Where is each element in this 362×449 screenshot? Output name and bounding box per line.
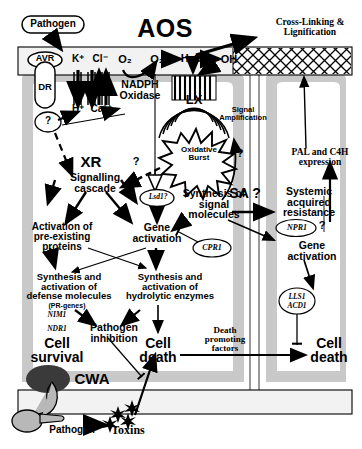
diagram-canvas: Pathogen AVR DR ? AOS Cross-Linking & Li… — [0, 0, 362, 449]
llsl-acd1-label: LLS1 ACD1 — [281, 293, 313, 310]
hydroxyl-label: OH — [218, 54, 240, 65]
dr-label: DR — [35, 82, 55, 92]
pathogen-top-label: Pathogen — [22, 19, 84, 29]
pal-c4h-label: PAL and C4H expression — [282, 148, 358, 167]
peroxide-label: H₂O₂ — [178, 53, 210, 64]
signal-amplification-label: Signal Amplification — [215, 106, 271, 121]
superoxide-label: O₂⁻ — [148, 54, 172, 65]
synthesis-hydrolytic-label: Synthesis and activation of hydrolytic e… — [122, 272, 218, 301]
amplification-question-label: ? — [234, 148, 246, 159]
npr1-question-label: ? — [316, 220, 328, 231]
lx-label: LX — [180, 93, 208, 106]
cascade-question-label: ? — [130, 156, 142, 167]
gene-activation-right-label: Gene activation — [282, 240, 342, 261]
oxidative-burst-label: Oxidative Burst — [174, 146, 224, 162]
ndr1-label: NDR1 — [40, 325, 74, 333]
calcium-label: Ca²⁺ — [88, 104, 114, 114]
signalling-cascade-label: Signalling cascade — [60, 172, 130, 193]
chloride-label: Cl⁻ — [90, 54, 110, 64]
proton-label: H⁺ — [68, 104, 88, 114]
crosslinking-label: Cross-Linking & Lignification — [262, 18, 358, 37]
toxins-label: Toxins — [102, 424, 154, 436]
nim1-label: NIM1 — [40, 311, 74, 319]
pr-genes-label: (PR-genes) — [36, 302, 98, 309]
cell-death-right-label: Cell death — [300, 336, 358, 365]
avr-label: AVR — [28, 54, 62, 63]
death-promoting-factors-label: Death promoting factors — [190, 326, 260, 354]
synthesis-defense-label: Synthesis and activation of defense mole… — [20, 272, 118, 301]
cell-death-left-label: Cell death — [128, 336, 188, 365]
gene-activation-left-label: Gene activation — [128, 222, 186, 243]
cwa-label: CWA — [66, 371, 118, 386]
npr1-label: NPR1 — [282, 224, 312, 232]
aos-title: AOS — [125, 16, 205, 42]
cpr1-label: CPR1 — [196, 244, 228, 252]
receptor-question-label: ? — [40, 116, 56, 126]
sar-label: Systemic acquired resistance — [274, 186, 344, 218]
pathogen-bottom-label: Pathogen — [44, 425, 100, 435]
bottom-cell-wall — [18, 390, 352, 414]
oxygen-label: O₂ — [114, 54, 136, 65]
potassium-label: K⁺ — [68, 54, 88, 64]
cell-survival-label: Cell survival — [24, 336, 90, 365]
lsd1-label: Lsd1? — [142, 193, 174, 201]
nadph-oxidase-label: NADPH Oxidase — [114, 79, 166, 100]
activation-preexisting-label: Activation of pre-existing proteins — [22, 222, 102, 253]
sa-label: SA ? — [228, 186, 262, 200]
xr-label: XR — [76, 154, 106, 169]
